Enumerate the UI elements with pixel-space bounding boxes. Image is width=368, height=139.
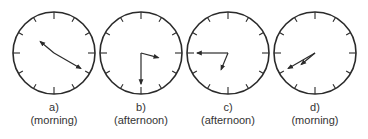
hour-tick	[18, 33, 22, 36]
hour-tick	[18, 71, 22, 74]
clock-face-c	[182, 0, 274, 100]
clock-b: b) (afternoon)	[95, 0, 187, 139]
hour-tick	[279, 33, 283, 36]
hour-tick	[172, 71, 176, 74]
hour-tick	[333, 17, 336, 21]
hour-tick	[333, 84, 336, 88]
hour-tick	[72, 84, 75, 88]
hour-tick	[246, 84, 249, 88]
clock-d: d) (morning)	[269, 0, 361, 139]
minute-hand	[288, 53, 315, 69]
clock-c: c) (afternoon)	[182, 0, 274, 139]
hour-tick	[85, 71, 89, 74]
clock-d-period: (morning)	[269, 114, 361, 126]
hour-tick	[259, 33, 263, 36]
minute-hand	[54, 53, 81, 69]
clock-c-letter: c)	[182, 101, 274, 113]
clock-face-d	[269, 0, 361, 100]
hour-tick	[259, 71, 263, 74]
clock-b-letter: b)	[95, 101, 187, 113]
hour-tick	[34, 84, 37, 88]
hour-tick	[192, 71, 196, 74]
hour-tick	[172, 33, 176, 36]
clock-a-letter: a)	[8, 101, 100, 113]
hour-tick	[34, 17, 37, 21]
clock-a: a) (morning)	[8, 0, 100, 139]
clock-b-period: (afternoon)	[95, 114, 187, 126]
hour-hand	[141, 53, 158, 58]
hour-tick	[208, 17, 211, 21]
clock-face-b	[95, 0, 187, 100]
hour-tick	[279, 71, 283, 74]
clock-c-period: (afternoon)	[182, 114, 274, 126]
hour-tick	[346, 71, 350, 74]
hour-tick	[346, 33, 350, 36]
hour-tick	[295, 84, 298, 88]
hour-tick	[105, 33, 109, 36]
hour-hand	[40, 41, 54, 53]
clock-d-letter: d)	[269, 101, 361, 113]
clock-a-period: (morning)	[8, 114, 100, 126]
hour-tick	[72, 17, 75, 21]
hour-tick	[159, 17, 162, 21]
hour-tick	[121, 84, 124, 88]
hour-tick	[208, 84, 211, 88]
hour-tick	[295, 17, 298, 21]
hour-tick	[246, 17, 249, 21]
hour-tick	[105, 71, 109, 74]
hour-hand	[221, 53, 228, 70]
hour-tick	[192, 33, 196, 36]
hour-tick	[85, 33, 89, 36]
hour-tick	[159, 84, 162, 88]
clock-face-a	[8, 0, 100, 100]
hour-tick	[121, 17, 124, 21]
